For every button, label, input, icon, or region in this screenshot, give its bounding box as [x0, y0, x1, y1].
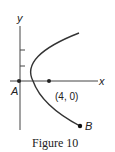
figure-diagram: y x A (4, 0) B Figure 10: [0, 0, 115, 152]
point-b-label: B: [85, 120, 92, 132]
parabola-curve: [31, 33, 80, 126]
point-a-label: A: [10, 85, 18, 97]
focus-label: (4, 0): [55, 91, 78, 102]
point-a: [17, 79, 21, 83]
x-axis-label: x: [98, 75, 105, 87]
figure-caption: Figure 10: [32, 136, 78, 150]
point-focus: [47, 79, 51, 83]
y-axis-label: y: [16, 12, 24, 24]
point-b: [78, 124, 82, 128]
